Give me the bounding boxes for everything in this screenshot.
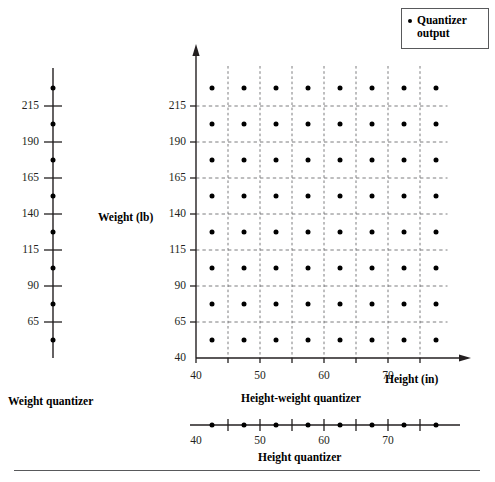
quantizer-output-point [242,302,247,307]
quantizer-output-point [338,86,343,91]
height-quantizer-output-point [338,423,343,428]
weight-quantizer-output-point [51,194,56,199]
quantizer-output-point [242,86,247,91]
quantizer-output-point [370,122,375,127]
quantizer-output-point [306,122,311,127]
weight-quantizer-tick-label: 215 [13,100,39,112]
quantizer-output-point [210,302,215,307]
quantizer-output-point [338,230,343,235]
height-quantizer-output-point [306,423,311,428]
height-quantizer-output-point [370,423,375,428]
quantizer-output-point [306,86,311,91]
weight-quantizer-caption: Weight quantizer [8,396,93,408]
legend: Quantizer output [401,8,489,49]
quantizer-output-point [338,158,343,163]
legend-label-line2: output [417,27,450,39]
y-axis-arrowhead [192,44,199,56]
quantizer-output-point [370,230,375,235]
quantizer-output-point [338,122,343,127]
quantizer-output-point [402,338,407,343]
quantizer-output-point [210,158,215,163]
quantizer-output-point [306,194,311,199]
quantizer-output-point [242,122,247,127]
main-plot-x-tick-label: 40 [184,370,208,382]
height-quantizer-tick-label: 70 [376,435,400,447]
quantizer-output-point [274,122,279,127]
quantizer-output-point [242,158,247,163]
height-quantizer-tick-label: 50 [248,435,272,447]
quantizer-output-point [274,302,279,307]
height-quantizer-tick-label: 60 [312,435,336,447]
quantizer-output-point [210,266,215,271]
quantizer-output-point [402,302,407,307]
x-axis-arrowhead [459,354,471,361]
quantizer-output-point [402,230,407,235]
main-plot-y-tick-label: 140 [160,208,186,220]
quantizer-output-point [242,338,247,343]
quantizer-output-point [434,302,439,307]
weight-quantizer-tick-label: 90 [13,280,39,292]
quantizer-output-point [370,302,375,307]
height-quantizer-output-point [242,423,247,428]
weight-quantizer-tick-label: 190 [13,136,39,148]
weight-quantizer-output-point [51,122,56,127]
figure-canvas [0,0,495,482]
quantizer-output-point [242,266,247,271]
quantizer-output-point [306,338,311,343]
quantizer-output-point [370,194,375,199]
legend-label-line1: Quantizer [417,14,467,26]
height-quantizer-output-point [402,423,407,428]
weight-quantizer-output-point [51,338,56,343]
quantizer-output-point [210,338,215,343]
main-plot-x-axis-title: Height (in) [385,374,438,386]
main-plot-y-tick-label: 115 [160,244,186,256]
main-plot-y-tick-label: 165 [160,172,186,184]
quantizer-output-point [306,230,311,235]
quantizer-output-point [370,266,375,271]
height-quantizer-caption: Height quantizer [258,452,341,464]
quantizer-output-point [338,338,343,343]
quantizer-output-point [402,266,407,271]
quantizer-output-point [370,86,375,91]
quantizer-output-point [402,122,407,127]
main-plot-y-tick-label: 40 [160,352,186,364]
quantizer-output-point [434,122,439,127]
quantizer-output-point [306,158,311,163]
quantizer-output-point [338,302,343,307]
weight-quantizer-output-point [51,302,56,307]
main-plot-y-tick-label: 90 [160,280,186,292]
weight-quantizer-output-point [51,86,56,91]
weight-quantizer-tick-label: 115 [13,244,39,256]
quantizer-output-point [274,266,279,271]
main-plot-y-tick-label: 215 [160,100,186,112]
height-quantizer-output-point [274,423,279,428]
bottom-divider [14,470,480,471]
legend-label: Quantizer output [417,14,467,40]
quantizer-output-point [402,194,407,199]
main-plot-x-tick-label: 60 [312,370,336,382]
quantizer-output-point [434,266,439,271]
height-quantizer-tick-label: 40 [184,435,208,447]
weight-quantizer-tick-label: 165 [13,172,39,184]
quantizer-output-point [210,86,215,91]
height-quantizer-output-point [210,423,215,428]
quantizer-output-point [370,338,375,343]
quantizer-output-point [370,158,375,163]
main-plot-x-tick-label: 50 [248,370,272,382]
quantizer-output-point [210,122,215,127]
quantizer-output-point [274,338,279,343]
quantizer-output-point [306,266,311,271]
quantizer-output-point [274,86,279,91]
main-plot-y-tick-label: 65 [160,316,186,328]
main-plot-caption: Height-weight quantizer [241,393,361,405]
quantizer-output-point [434,158,439,163]
quantizer-output-point [274,158,279,163]
height-quantizer-output-point [434,423,439,428]
quantizer-output-point [242,194,247,199]
quantizer-output-point [402,86,407,91]
main-plot-y-tick-label: 190 [160,136,186,148]
quantizer-output-point [338,266,343,271]
quantizer-output-point [274,194,279,199]
quantizer-output-point [434,230,439,235]
quantizer-output-point [402,158,407,163]
